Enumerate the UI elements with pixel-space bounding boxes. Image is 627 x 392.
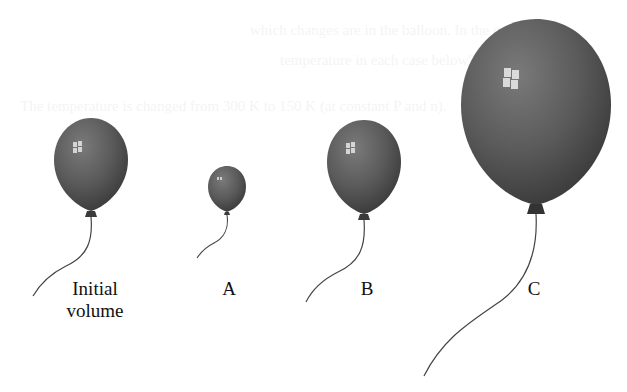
balloon-b <box>306 120 401 302</box>
balloon-knot-icon <box>527 204 545 214</box>
balloon-c <box>424 19 611 376</box>
balloon-knot-icon <box>224 212 230 215</box>
label-initial-volume: Initial volume <box>55 278 135 322</box>
balloon-string <box>197 215 227 258</box>
label-initial-line-1: Initial <box>55 278 135 300</box>
label-c: C <box>519 278 549 300</box>
label-b: B <box>352 278 382 300</box>
label-a: A <box>214 278 244 300</box>
balloon-a <box>197 166 246 258</box>
label-initial-line-2: volume <box>55 300 135 322</box>
balloon-knot-icon <box>358 214 370 220</box>
balloon-knot-icon <box>85 211 97 217</box>
balloon-figure <box>0 0 627 392</box>
balloon-initial <box>33 118 128 296</box>
